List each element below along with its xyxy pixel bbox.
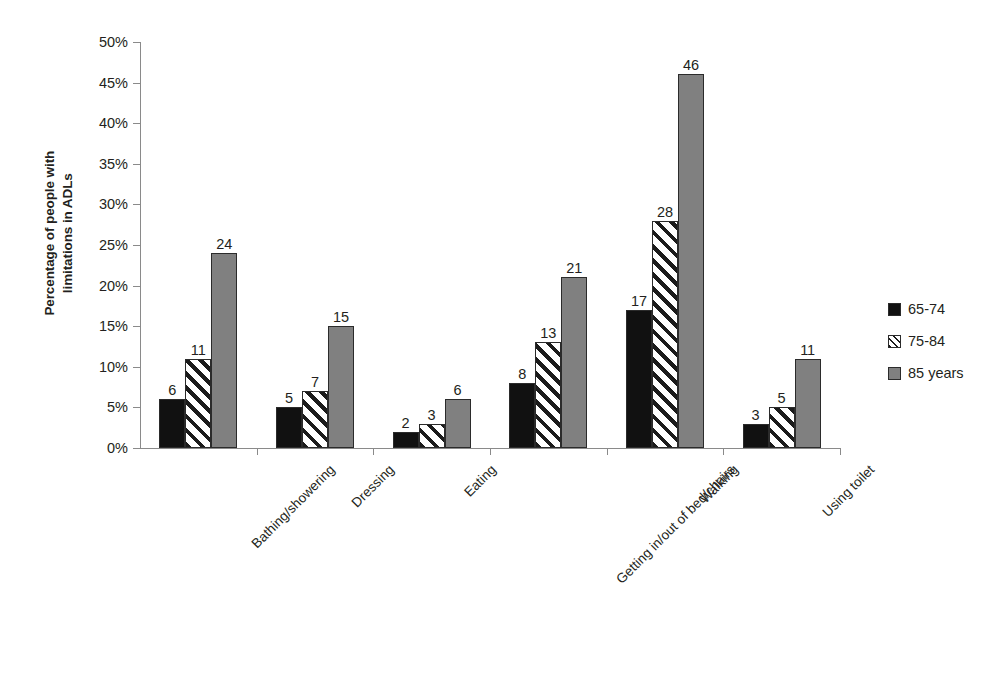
bar[interactable]: 8 xyxy=(509,383,535,448)
bar[interactable]: 11 xyxy=(185,359,211,448)
y-axis-tick-label: 15% xyxy=(99,318,128,334)
legend-swatch-icon xyxy=(888,335,901,348)
bar-value-label: 2 xyxy=(402,415,410,431)
bar[interactable]: 6 xyxy=(159,399,185,448)
bar-value-label: 8 xyxy=(518,366,526,382)
bar[interactable]: 17 xyxy=(626,310,652,448)
x-axis-category-label: Using toilet xyxy=(819,462,877,520)
y-axis-tick xyxy=(133,367,140,368)
x-axis-category-label: Bathing/showering xyxy=(249,462,338,551)
bar[interactable]: 11 xyxy=(795,359,821,448)
bar-value-label: 46 xyxy=(683,57,699,73)
x-axis-category-label: Eating xyxy=(461,462,499,500)
y-axis-tick-label: 20% xyxy=(99,278,128,294)
bar[interactable]: 3 xyxy=(419,424,445,448)
legend-swatch-icon xyxy=(888,367,901,380)
y-axis-tick xyxy=(133,123,140,124)
x-axis-tick xyxy=(607,448,608,455)
y-axis-tick xyxy=(133,245,140,246)
y-axis-tick-label: 0% xyxy=(107,440,128,456)
bar[interactable]: 24 xyxy=(211,253,237,448)
legend-item[interactable]: 75-84 xyxy=(888,328,964,354)
bar[interactable]: 2 xyxy=(393,432,419,448)
bar-group: 236 xyxy=(373,42,490,448)
bar-value-label: 15 xyxy=(333,309,349,325)
y-axis-tick xyxy=(133,326,140,327)
plot-area: 0%5%10%15%20%25%30%35%40%45%50% 61124571… xyxy=(140,42,840,448)
legend-label: 75-84 xyxy=(908,333,945,349)
bar-value-label: 5 xyxy=(285,390,293,406)
y-axis-tick-label: 25% xyxy=(99,237,128,253)
x-axis-tick xyxy=(490,448,491,455)
bar-group: 81321 xyxy=(490,42,607,448)
bar-value-label: 6 xyxy=(168,382,176,398)
bar-value-label: 6 xyxy=(454,382,462,398)
legend-item[interactable]: 65-74 xyxy=(888,296,964,322)
bar-value-label: 11 xyxy=(191,342,206,358)
y-axis-tick-label: 30% xyxy=(99,196,128,212)
bar[interactable]: 21 xyxy=(561,277,587,448)
legend: 65-7475-8485 years xyxy=(888,296,964,392)
bar[interactable]: 15 xyxy=(328,326,354,448)
legend-label: 65-74 xyxy=(908,301,945,317)
y-axis-tick xyxy=(133,42,140,43)
y-axis-tick-label: 50% xyxy=(99,34,128,50)
bar-value-label: 28 xyxy=(657,204,673,220)
x-axis-category-label: Dressing xyxy=(349,462,397,510)
bar[interactable]: 5 xyxy=(769,407,795,448)
legend-item[interactable]: 85 years xyxy=(888,360,964,386)
x-axis-tick xyxy=(723,448,724,455)
y-axis-tick xyxy=(133,407,140,408)
x-axis-tick xyxy=(257,448,258,455)
bar[interactable]: 46 xyxy=(678,74,704,448)
bar[interactable]: 3 xyxy=(743,424,769,448)
bar[interactable]: 28 xyxy=(652,221,678,448)
bar-value-label: 17 xyxy=(631,293,647,309)
bar[interactable]: 6 xyxy=(445,399,471,448)
x-axis-tick xyxy=(373,448,374,455)
bar-value-label: 3 xyxy=(752,407,760,423)
bar[interactable]: 13 xyxy=(535,342,561,448)
legend-swatch-icon xyxy=(888,303,901,316)
bar-group: 5715 xyxy=(257,42,374,448)
bar-value-label: 7 xyxy=(311,374,319,390)
bar[interactable]: 5 xyxy=(276,407,302,448)
bar-value-label: 3 xyxy=(428,407,436,423)
y-axis-tick-label: 40% xyxy=(99,115,128,131)
bar-value-label: 5 xyxy=(778,390,786,406)
y-axis-title: Percentage of people with limitations in… xyxy=(41,108,77,358)
x-axis-tick xyxy=(840,448,841,455)
y-axis-tick-label: 10% xyxy=(99,359,128,375)
y-axis-tick-label: 45% xyxy=(99,75,128,91)
bar-value-label: 13 xyxy=(540,325,556,341)
bar-value-label: 11 xyxy=(800,342,815,358)
y-axis-tick xyxy=(133,204,140,205)
y-axis-tick xyxy=(133,448,140,449)
y-axis-tick xyxy=(133,83,140,84)
y-axis-tick-label: 35% xyxy=(99,156,128,172)
bar-group: 3511 xyxy=(723,42,840,448)
bar-group: 61124 xyxy=(140,42,257,448)
y-axis-tick xyxy=(133,286,140,287)
bar-chart: Percentage of people with limitations in… xyxy=(0,0,998,686)
bar[interactable]: 7 xyxy=(302,391,328,448)
legend-label: 85 years xyxy=(908,365,964,381)
y-axis-tick xyxy=(133,164,140,165)
bar-value-label: 21 xyxy=(566,260,582,276)
bar-value-label: 24 xyxy=(216,236,232,252)
y-axis-tick-label: 5% xyxy=(107,399,128,415)
bar-group: 172846 xyxy=(607,42,724,448)
